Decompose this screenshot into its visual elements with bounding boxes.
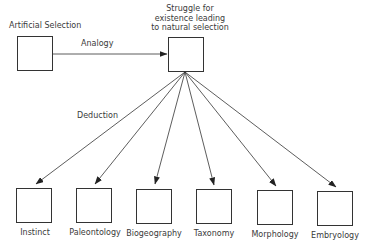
struggle-label-line-3: to natural selection [151,23,229,33]
deduction-arrow-biogeography [155,72,185,184]
artificial-selection-label: Artificial Selection [9,21,81,31]
struggle-label: Struggle for existence leading to natura… [151,4,229,33]
analogy-label: Analogy [81,39,113,49]
paleontology-node [76,188,112,223]
natural-selection-node [168,37,204,72]
deduction-arrow-embryology [185,72,336,187]
instinct-label: Instinct [20,228,50,238]
struggle-label-line-2: existence leading [151,14,229,24]
struggle-label-line-1: Struggle for [151,4,229,14]
deduction-arrow-morphology [185,72,276,186]
taxonomy-node [196,189,232,224]
morphology-label: Morphology [251,230,298,240]
deduction-arrow-instinct [36,72,185,184]
taxonomy-label: Taxonomy [194,229,234,239]
deduction-arrow-taxonomy [185,72,214,185]
deduction-label: Deduction [77,111,118,121]
artificial-selection-node [17,36,53,71]
biogeography-label: Biogeography [126,229,182,239]
embryology-node [317,191,353,226]
deduction-arrow-paleontology [95,72,185,184]
paleontology-label: Paleontology [69,228,120,238]
morphology-node [257,190,293,225]
embryology-label: Embryology [311,231,359,241]
instinct-node [16,188,52,223]
biogeography-node [136,189,172,224]
